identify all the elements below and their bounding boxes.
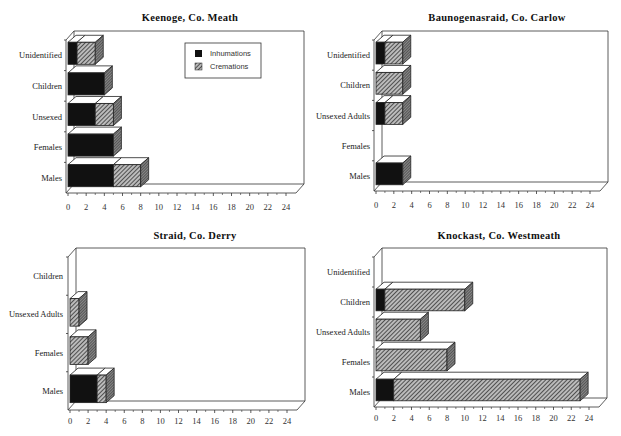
category-label: Males xyxy=(349,387,370,397)
bar-inhumations xyxy=(68,165,113,187)
chart-3-plot: 024681012141618202224MalesFemalesUnsexed… xyxy=(316,248,607,423)
x-tick-label: 22 xyxy=(568,200,577,210)
x-tick-label: 12 xyxy=(478,413,487,423)
bar-inhumations xyxy=(376,163,403,185)
category-label: Children xyxy=(340,80,370,90)
x-tick-label: 2 xyxy=(392,200,396,210)
x-tick-label: 4 xyxy=(410,200,415,210)
x-tick-label: 4 xyxy=(102,202,107,212)
x-tick-label: 10 xyxy=(461,413,470,423)
bar-cremations xyxy=(376,319,420,341)
legend-label-inhumations: Inhumations xyxy=(210,49,251,58)
category-label: Females xyxy=(342,141,370,151)
x-tick-label: 20 xyxy=(550,200,559,210)
x-tick-label: 12 xyxy=(174,416,183,426)
category-label: Females xyxy=(34,142,62,152)
bar-cremations xyxy=(385,42,403,64)
x-tick-label: 10 xyxy=(461,200,470,210)
x-tick-label: 18 xyxy=(532,413,541,423)
x-tick-label: 0 xyxy=(68,416,72,426)
bar-inhumations xyxy=(68,42,77,64)
legend-label-cremations: Cremations xyxy=(210,62,249,71)
x-tick-label: 16 xyxy=(209,202,218,212)
x-tick-label: 18 xyxy=(227,202,236,212)
x-tick-label: 6 xyxy=(427,413,431,423)
x-tick-label: 24 xyxy=(585,413,594,423)
category-label: Females xyxy=(342,357,370,367)
x-tick-label: 24 xyxy=(586,200,595,210)
category-label: Children xyxy=(33,271,63,281)
category-label: Children xyxy=(32,81,62,91)
category-label: Males xyxy=(349,171,370,181)
bar-cremations xyxy=(385,289,465,311)
x-tick-label: 16 xyxy=(210,416,219,426)
bar-cremations xyxy=(113,165,140,187)
x-tick-label: 4 xyxy=(409,413,414,423)
bar-cremations xyxy=(376,349,447,371)
x-tick-label: 16 xyxy=(514,413,523,423)
bar-cremations xyxy=(385,103,403,125)
x-tick-label: 22 xyxy=(264,202,273,212)
x-tick-label: 14 xyxy=(191,202,200,212)
category-label: Children xyxy=(340,297,370,307)
x-tick-label: 16 xyxy=(514,200,523,210)
legend: InhumationsCremations xyxy=(185,43,261,78)
category-label: Unidentified xyxy=(327,50,371,60)
bar-cremations xyxy=(97,375,106,403)
legend-swatch-inhumations xyxy=(195,50,202,57)
bar-inhumations xyxy=(68,73,104,95)
x-tick-label: 18 xyxy=(229,416,238,426)
bar-inhumations xyxy=(70,375,97,403)
bar-cremations xyxy=(376,72,403,94)
x-tick-label: 0 xyxy=(374,200,378,210)
x-tick-label: 8 xyxy=(445,413,449,423)
x-tick-label: 10 xyxy=(156,416,165,426)
x-tick-label: 2 xyxy=(84,202,88,212)
x-tick-label: 22 xyxy=(265,416,274,426)
category-label: Unidentified xyxy=(327,267,371,277)
bar-inhumations xyxy=(376,289,385,311)
x-tick-label: 0 xyxy=(66,202,70,212)
x-tick-label: 14 xyxy=(496,413,505,423)
bar-cremations xyxy=(70,299,79,327)
x-tick-label: 12 xyxy=(479,200,488,210)
x-tick-label: 6 xyxy=(427,200,431,210)
x-tick-label: 12 xyxy=(173,202,182,212)
x-tick-label: 14 xyxy=(497,200,506,210)
bar-inhumations xyxy=(376,379,394,401)
category-label: Males xyxy=(42,386,63,396)
x-tick-label: 2 xyxy=(86,416,90,426)
plot-canvas: 024681012141618202224MalesFemalesUnsexed… xyxy=(0,0,621,436)
chart-1-plot: 024681012141618202224MalesFemalesUnsexed… xyxy=(316,31,608,210)
category-label: Unsexed Adults xyxy=(316,111,370,121)
category-label: Unsexed xyxy=(32,112,62,122)
x-tick-label: 22 xyxy=(567,413,576,423)
x-tick-label: 10 xyxy=(155,202,164,212)
category-label: Unidentified xyxy=(19,50,63,60)
bar-inhumations xyxy=(376,103,385,125)
x-tick-label: 6 xyxy=(120,202,124,212)
x-tick-label: 0 xyxy=(374,413,378,423)
bar-inhumations xyxy=(376,42,385,64)
bar-inhumations xyxy=(68,134,113,156)
x-tick-label: 20 xyxy=(549,413,558,423)
category-label: Males xyxy=(41,173,62,183)
chart-0-plot: 024681012141618202224MalesFemalesUnsexed… xyxy=(19,31,304,212)
x-tick-label: 8 xyxy=(139,202,143,212)
category-label: Unsexed Adults xyxy=(316,327,370,337)
x-tick-label: 20 xyxy=(247,416,256,426)
category-label: Unsexed Adults xyxy=(9,309,63,319)
bar-cremations xyxy=(394,379,580,401)
bar-cremations xyxy=(70,337,88,365)
x-tick-label: 24 xyxy=(283,416,292,426)
category-label: Females xyxy=(35,348,63,358)
bar-cremations xyxy=(95,103,113,125)
bar-cremations xyxy=(77,42,95,64)
x-tick-label: 2 xyxy=(392,413,396,423)
legend-swatch-cremations xyxy=(195,63,202,70)
x-tick-label: 6 xyxy=(122,416,126,426)
x-tick-label: 14 xyxy=(192,416,201,426)
x-tick-label: 4 xyxy=(104,416,109,426)
x-tick-label: 18 xyxy=(532,200,541,210)
x-tick-label: 8 xyxy=(140,416,144,426)
